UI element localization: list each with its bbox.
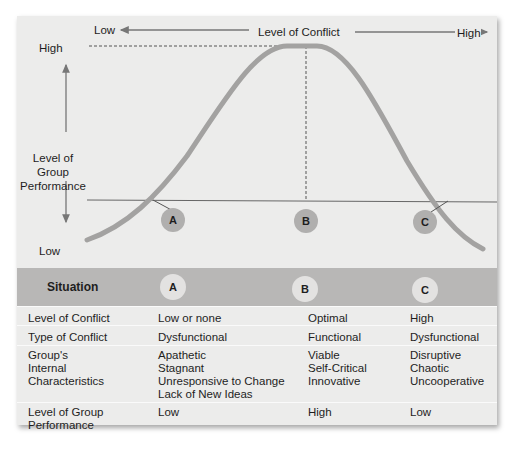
situation-a-badge: A xyxy=(160,274,186,300)
x-axis-low-label: Low xyxy=(94,24,115,36)
table-row: Level of Group Performance Low High Low xyxy=(17,402,497,429)
y-axis-high-label: High xyxy=(39,42,63,54)
svg-text:B: B xyxy=(302,215,310,227)
x-axis-high-label: High xyxy=(455,27,481,39)
y-axis-title: Level of Group Performance xyxy=(17,151,89,193)
situation-c-badge: C xyxy=(412,277,438,303)
situation-b-badge: B xyxy=(292,276,318,302)
situation-header: Situation xyxy=(47,280,98,294)
svg-text:C: C xyxy=(421,216,429,228)
y-axis-low-label: Low xyxy=(39,245,60,257)
x-axis-title: Level of Conflict xyxy=(255,26,343,38)
chart-graphics: A B C xyxy=(17,16,497,266)
table-header-band: Situation A B C xyxy=(17,268,497,306)
svg-text:A: A xyxy=(169,214,177,226)
table-row: Group's Internal Characteristics Apathet… xyxy=(17,345,497,405)
performance-curve-chart: A B C Low Level of Conflict High High Le… xyxy=(17,16,497,266)
conflict-performance-panel: A B C Low Level of Conflict High High Le… xyxy=(17,16,497,425)
